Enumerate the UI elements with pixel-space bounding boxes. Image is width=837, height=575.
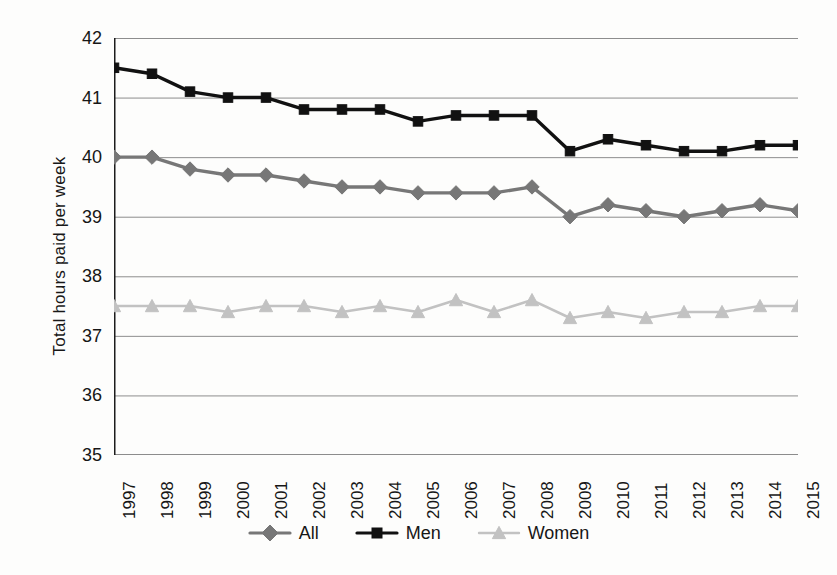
- data-point-marker: [755, 140, 765, 150]
- data-point-marker: [793, 140, 798, 150]
- x-tick-label: 1998: [159, 455, 176, 519]
- x-tick-label: 1999: [197, 455, 214, 519]
- data-point-marker: [297, 174, 311, 188]
- data-point-marker: [715, 204, 729, 218]
- x-tick-label: 2002: [311, 455, 328, 519]
- data-point-marker: [753, 198, 767, 212]
- series-line: [114, 68, 798, 151]
- data-point-marker: [373, 180, 387, 194]
- y-tick-label: 41: [48, 89, 102, 107]
- y-tick-label: 36: [48, 386, 102, 404]
- data-point-marker: [413, 117, 423, 127]
- y-tick-label: 37: [48, 327, 102, 345]
- data-point-marker: [679, 146, 689, 156]
- data-point-marker: [791, 204, 798, 218]
- data-point-marker: [603, 135, 613, 145]
- x-tick-label: 2013: [729, 455, 746, 519]
- data-point-marker: [565, 146, 575, 156]
- data-point-marker: [449, 186, 463, 200]
- data-point-marker: [337, 105, 347, 115]
- x-tick-label: 2006: [463, 455, 480, 519]
- x-tick-label: 2015: [805, 455, 822, 519]
- data-point-marker: [527, 111, 537, 121]
- data-point-marker: [185, 87, 195, 97]
- legend-label: Men: [406, 524, 441, 542]
- x-tick-label: 2011: [653, 455, 670, 519]
- data-point-marker: [411, 186, 425, 200]
- y-tick-label: 39: [48, 208, 102, 226]
- data-point-marker: [451, 111, 461, 121]
- x-tick-label: 2010: [615, 455, 632, 519]
- legend-marker-triangle-icon: [477, 524, 521, 542]
- data-point-marker: [717, 146, 727, 156]
- data-point-marker: [114, 63, 119, 73]
- data-point-marker: [259, 168, 273, 182]
- x-tick-label: 2009: [577, 455, 594, 519]
- x-tick-label: 2007: [501, 455, 518, 519]
- gridlines: [114, 39, 798, 456]
- x-tick-label: 1997: [121, 455, 138, 519]
- legend-entry-women[interactable]: Women: [477, 524, 590, 542]
- legend-marker-diamond-icon: [248, 524, 292, 542]
- x-tick-label: 2000: [235, 455, 252, 519]
- y-tick-label: 42: [48, 29, 102, 47]
- series-men: [114, 63, 798, 156]
- y-tick-label: 35: [48, 446, 102, 464]
- x-tick-label: 2008: [539, 455, 556, 519]
- legend-label: Women: [528, 524, 590, 542]
- data-point-marker: [114, 150, 121, 164]
- y-axis-tick-labels: 4241403938373635: [40, 0, 102, 575]
- plot-area: [114, 38, 798, 455]
- x-tick-label: 2012: [691, 455, 708, 519]
- data-point-marker: [487, 186, 501, 200]
- figure-caption: [6, 563, 826, 575]
- chart-svg: [114, 38, 798, 455]
- data-point-marker: [639, 204, 653, 218]
- x-tick-label: 2001: [273, 455, 290, 519]
- y-tick-label: 40: [48, 148, 102, 166]
- x-axis-tick-labels: 1997199819992000200120022003200420052006…: [114, 455, 798, 525]
- data-point-marker: [145, 150, 159, 164]
- y-tick-label: 38: [48, 267, 102, 285]
- x-tick-label: 2014: [767, 455, 784, 519]
- x-tick-label: 2003: [349, 455, 366, 519]
- data-point-marker: [262, 525, 278, 541]
- chart-legend: AllMenWomen: [0, 524, 837, 542]
- data-point-marker: [335, 180, 349, 194]
- data-point-marker: [372, 528, 382, 538]
- data-point-marker: [677, 210, 691, 224]
- data-point-marker: [299, 105, 309, 115]
- x-tick-label: 2005: [425, 455, 442, 519]
- data-point-marker: [261, 93, 271, 103]
- data-point-marker: [223, 93, 233, 103]
- legend-marker-square-icon: [355, 524, 399, 542]
- data-point-marker: [641, 140, 651, 150]
- x-tick-label: 2004: [387, 455, 404, 519]
- series-all: [114, 150, 798, 224]
- data-point-marker: [489, 111, 499, 121]
- axis-lines: [114, 38, 798, 455]
- data-point-marker: [449, 293, 462, 305]
- data-point-marker: [183, 162, 197, 176]
- legend-label: All: [299, 524, 319, 542]
- data-point-marker: [147, 69, 157, 79]
- series-women: [114, 293, 798, 323]
- legend-entry-men[interactable]: Men: [355, 524, 441, 542]
- figure-container: Total hours paid per week 42414039383736…: [0, 0, 837, 575]
- data-point-marker: [525, 293, 538, 305]
- data-point-marker: [375, 105, 385, 115]
- data-point-marker: [221, 168, 235, 182]
- data-point-marker: [601, 198, 615, 212]
- legend-entry-all[interactable]: All: [248, 524, 319, 542]
